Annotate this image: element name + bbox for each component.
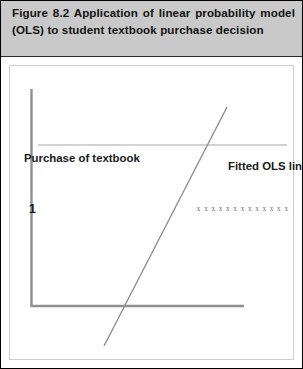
axes-and-lines-svg (10, 66, 295, 361)
plot-panel: Purchase of textbook Fitted OLS line 1 0… (9, 65, 294, 360)
y-axis-title: Purchase of textbook (24, 152, 140, 164)
data-marker: x (195, 205, 202, 213)
data-markers-purchasers: xxxxxxxxxxxxx (195, 205, 290, 213)
data-marker: x (224, 205, 231, 213)
y-tick-label-one: 1 (29, 202, 36, 216)
data-marker: x (253, 205, 260, 213)
figure-container: Figure 8.2 Application of linear probabi… (0, 0, 303, 369)
data-marker: x (261, 205, 268, 213)
data-marker: x (202, 205, 209, 213)
data-marker: x (246, 205, 253, 213)
data-marker: x (210, 205, 217, 213)
data-marker: x (239, 205, 246, 213)
data-marker: x (268, 205, 275, 213)
data-marker: x (217, 205, 224, 213)
figure-caption-band: Figure 8.2 Application of linear probabi… (1, 1, 302, 57)
fitted-ols-line-label: Fitted OLS line (228, 160, 303, 172)
figure-caption: Figure 8.2 Application of linear probabi… (12, 4, 295, 39)
data-marker: x (231, 205, 238, 213)
plot-area: Purchase of textbook Fitted OLS line 1 0… (10, 66, 293, 359)
data-marker: x (275, 205, 282, 213)
data-marker: x (283, 205, 290, 213)
fitted-ols-line (104, 107, 227, 346)
